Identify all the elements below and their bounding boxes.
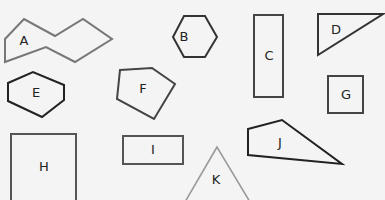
shape-d-label: D: [331, 22, 341, 37]
shape-j-label: J: [277, 135, 282, 150]
shape-d-outline: [318, 14, 383, 55]
shape-b-label: B: [180, 29, 189, 44]
shape-i-label: I: [151, 142, 155, 157]
shape-d: D: [318, 14, 383, 55]
shape-g-label: G: [341, 87, 351, 102]
shape-h: H: [11, 134, 76, 200]
shape-j-outline: [248, 120, 342, 164]
shape-i: I: [123, 136, 183, 164]
shape-e-label: E: [32, 85, 40, 100]
shape-k-label: K: [212, 172, 221, 187]
shape-b: B: [173, 16, 217, 57]
shape-e: E: [8, 72, 64, 117]
shape-c: C: [254, 15, 283, 97]
shape-k: K: [185, 147, 250, 200]
shape-f-label: F: [139, 81, 146, 96]
shape-j: J: [248, 120, 342, 164]
shape-h-label: H: [39, 159, 49, 174]
shape-a-label: A: [20, 33, 29, 48]
shape-g: G: [328, 76, 363, 113]
shape-a: A: [5, 19, 112, 62]
shape-f: F: [117, 68, 175, 119]
shape-c-label: C: [264, 48, 273, 63]
shapes-diagram: A B C D E F G H I J K: [0, 0, 385, 200]
